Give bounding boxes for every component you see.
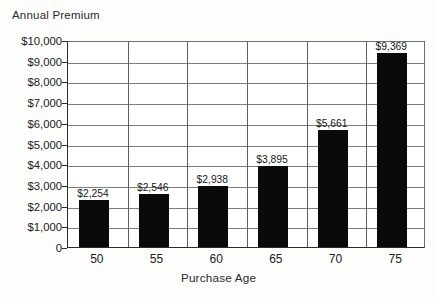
bar-value-label: $2,254 [77, 188, 109, 199]
bar-value-label: $2,938 [197, 174, 229, 185]
y-axis-tick-mark [62, 248, 67, 249]
x-axis-tick-label: 65 [269, 252, 282, 266]
bar [198, 186, 228, 247]
bar [318, 130, 348, 247]
gridline-horizontal [68, 83, 424, 84]
y-axis-tick-label: $7,000 [0, 97, 62, 109]
bar [258, 166, 288, 247]
gridline-vertical [247, 42, 248, 247]
bar [79, 200, 109, 247]
y-axis-tick-label: $2,000 [0, 201, 62, 213]
gridline-horizontal [68, 125, 424, 126]
chart-figure: Annual Premium 0$1,000$2,000$3,000$4,000… [0, 0, 437, 297]
y-axis-tick-label: $5,000 [0, 139, 62, 151]
gridline-horizontal [68, 187, 424, 188]
bar [139, 194, 169, 247]
x-axis-tick-label: 60 [209, 252, 222, 266]
plot-area [67, 41, 425, 248]
gridline-horizontal [68, 166, 424, 167]
bar [377, 53, 407, 247]
bar-value-label: $2,546 [137, 182, 169, 193]
bar-value-label: $5,661 [316, 118, 348, 129]
y-axis-tick-label: $10,000 [0, 35, 62, 47]
gridline-horizontal [68, 146, 424, 147]
gridline-vertical [187, 42, 188, 247]
x-axis-tick-label: 55 [150, 252, 163, 266]
y-axis-tick-label: $9,000 [0, 56, 62, 68]
gridline-horizontal [68, 104, 424, 105]
y-axis-tick-label: $4,000 [0, 159, 62, 171]
gridline-vertical [128, 42, 129, 247]
gridline-vertical [366, 42, 367, 247]
gridline-horizontal [68, 63, 424, 64]
y-axis-tick-label: 0 [0, 242, 62, 254]
y-axis-tick-label: $1,000 [0, 221, 62, 233]
y-axis-tick-label: $8,000 [0, 76, 62, 88]
y-axis-tick-label: $6,000 [0, 118, 62, 130]
gridline-horizontal [68, 208, 424, 209]
y-axis-tick-label: $3,000 [0, 180, 62, 192]
figure-caption [14, 290, 424, 297]
x-axis-tick-label: 70 [329, 252, 342, 266]
x-axis-tick-label: 75 [388, 252, 401, 266]
gridline-vertical [307, 42, 308, 247]
gridline-horizontal [68, 228, 424, 229]
x-axis-tick-label: 50 [90, 252, 103, 266]
y-axis-title: Annual Premium [12, 9, 100, 21]
x-axis-title: Purchase Age [0, 271, 437, 284]
bar-value-label: $9,369 [376, 41, 408, 52]
bar-value-label: $3,895 [256, 154, 288, 165]
